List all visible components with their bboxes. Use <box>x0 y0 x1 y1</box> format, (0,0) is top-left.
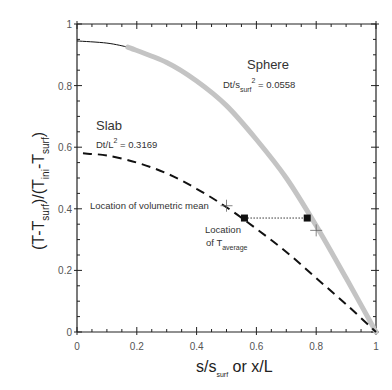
y-tick-label: 0.2 <box>58 265 72 276</box>
t-average-marker <box>241 215 248 222</box>
x-tick-label: 0.8 <box>309 341 323 352</box>
x-tick-label: 0 <box>74 341 80 352</box>
x-tick-label: 1 <box>373 341 379 352</box>
t-average-marker <box>304 215 311 222</box>
x-tick-label: 0.6 <box>249 341 263 352</box>
y-tick-label: 0.8 <box>58 81 72 92</box>
sphere-label: Sphere <box>247 57 289 72</box>
slab-curve-dashed <box>83 153 376 332</box>
x-tick-label: 0.4 <box>190 341 204 352</box>
y-tick-label: 0.4 <box>58 204 72 215</box>
y-axis-title: (T-Tsurf)/(Tini-Tsurf) <box>30 132 51 250</box>
sphere-curve-solid <box>77 41 128 47</box>
slab-parameter: Dt/L2 = 0.3169 <box>96 137 157 150</box>
y-tick-label: 1 <box>66 19 72 30</box>
x-axis-title: s/ssurf or x/L <box>196 358 273 378</box>
x-tick-labels: 0 0.2 0.4 0.6 0.8 1 <box>74 341 379 352</box>
sphere-curve-band <box>128 47 376 332</box>
axis-ticks <box>74 21 379 335</box>
sphere-parameter: Dt/ssurf2 = 0.0558 <box>223 77 295 93</box>
t-average-annotation-line2: of Taverage <box>206 237 248 252</box>
plot-frame <box>77 24 376 332</box>
y-tick-label: 0 <box>66 327 72 338</box>
x-tick-label: 0.2 <box>130 341 144 352</box>
volumetric-mean-annotation: Location of volumetric mean <box>90 200 209 211</box>
slab-label: Slab <box>96 118 122 133</box>
chart: 0 0.2 0.4 0.6 0.8 1 0 0.2 0.4 0.6 0.8 1 … <box>0 0 392 390</box>
y-tick-labels: 0 0.2 0.4 0.6 0.8 1 <box>58 19 72 338</box>
y-tick-label: 0.6 <box>58 142 72 153</box>
t-average-annotation-line1: Location <box>205 224 241 235</box>
